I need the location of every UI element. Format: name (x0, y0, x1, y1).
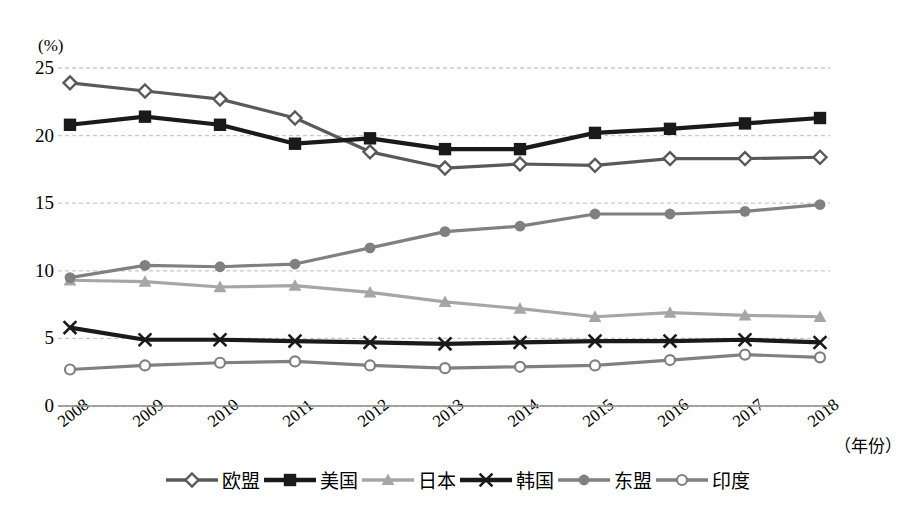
data-point-filled-square (664, 123, 676, 135)
data-point-filled-circle (515, 221, 526, 232)
data-point-filled-circle (440, 226, 451, 237)
data-point-filled-square (439, 143, 451, 155)
data-point-open-circle (665, 355, 675, 365)
data-point-filled-square (214, 119, 226, 131)
data-point-filled-circle (590, 209, 601, 220)
data-point-open-circle (215, 358, 225, 368)
data-point-filled-square (814, 112, 826, 124)
data-point-filled-square (64, 119, 76, 131)
legend-item-韩国[interactable]: 韩国 (458, 466, 556, 493)
legend-label: 印度 (710, 466, 752, 493)
data-point-filled-circle (740, 206, 751, 217)
data-point-open-circle (677, 475, 687, 485)
data-point-filled-square (589, 127, 601, 139)
legend-item-欧盟[interactable]: 欧盟 (164, 466, 262, 493)
data-point-open-circle (140, 360, 150, 370)
series-韩国 (64, 321, 827, 350)
chart-legend: 欧盟美国日本韩国东盟印度 (0, 466, 915, 493)
legend-marker-open-circle-icon (654, 469, 710, 491)
legend-marker-filled-circle-icon (556, 469, 612, 491)
legend-label: 欧盟 (220, 466, 262, 493)
data-point-open-diamond (589, 159, 602, 172)
data-point-open-diamond (814, 151, 827, 164)
series-美国 (64, 110, 826, 155)
legend-marker-filled-square-icon (262, 469, 318, 491)
legend-label: 美国 (318, 466, 360, 493)
data-point-open-diamond (439, 162, 452, 175)
legend-item-日本[interactable]: 日本 (360, 466, 458, 493)
data-point-open-circle (65, 364, 75, 374)
data-point-open-circle (515, 362, 525, 372)
legend-item-东盟[interactable]: 东盟 (556, 466, 654, 493)
data-point-filled-square (739, 117, 751, 129)
data-point-filled-square (139, 110, 151, 122)
data-point-filled-circle (578, 474, 589, 485)
data-point-filled-circle (140, 260, 151, 271)
data-point-filled-square (283, 473, 295, 485)
data-point-filled-square (364, 132, 376, 144)
series-line (70, 328, 820, 344)
data-point-filled-square (514, 143, 526, 155)
line-chart: (%) 2520151050 2008200920102011201220132… (0, 0, 915, 522)
series-印度 (65, 350, 825, 375)
legend-label: 日本 (416, 466, 458, 493)
legend-marker-open-diamond-icon (164, 469, 220, 491)
legend-item-印度[interactable]: 印度 (654, 466, 752, 493)
legend-label: 韩国 (514, 466, 556, 493)
data-point-filled-circle (815, 199, 826, 210)
data-point-open-diamond (185, 473, 198, 486)
data-point-open-circle (365, 360, 375, 370)
data-point-filled-circle (65, 272, 76, 283)
plot-area (0, 0, 915, 522)
data-point-open-circle (440, 363, 450, 373)
data-point-open-diamond (289, 112, 302, 125)
legend-marker-filled-triangle-icon (360, 469, 416, 491)
data-point-open-diamond (739, 152, 752, 165)
data-point-filled-circle (365, 242, 376, 253)
data-point-filled-square (289, 138, 301, 150)
series-line (70, 205, 820, 278)
data-point-open-circle (740, 350, 750, 360)
data-point-filled-circle (215, 261, 226, 272)
legend-label: 东盟 (612, 466, 654, 493)
legend-marker-x-cross-icon (458, 469, 514, 491)
data-point-open-diamond (664, 152, 677, 165)
data-point-open-diamond (139, 84, 152, 97)
legend-item-美国[interactable]: 美国 (262, 466, 360, 493)
data-point-open-circle (590, 360, 600, 370)
data-point-open-diamond (64, 76, 77, 89)
series-日本 (64, 274, 827, 322)
data-point-filled-circle (665, 209, 676, 220)
data-point-open-circle (815, 352, 825, 362)
data-point-open-diamond (364, 145, 377, 158)
data-point-open-circle (290, 356, 300, 366)
data-point-open-diamond (514, 157, 527, 170)
data-point-open-diamond (214, 93, 227, 106)
data-point-filled-circle (290, 259, 301, 270)
